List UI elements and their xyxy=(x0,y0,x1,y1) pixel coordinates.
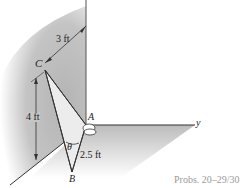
point-a-label: A xyxy=(88,112,94,122)
hinge-a-bracket xyxy=(84,129,96,135)
figure-drawing xyxy=(0,0,248,188)
mechanics-figure: 3 ft C 4 ft A θ 2.5 ft B y Probs. 20–29/… xyxy=(0,0,248,188)
dim-4ft-label: 4 ft xyxy=(26,112,40,122)
angle-theta-label: θ xyxy=(67,142,72,152)
dim-3ft-label: 3 ft xyxy=(56,34,70,44)
point-c-label: C xyxy=(35,58,42,69)
point-b-label: B xyxy=(69,174,75,184)
y-axis-label: y xyxy=(196,118,200,128)
dim-ab-label: 2.5 ft xyxy=(80,150,101,160)
figure-caption: Probs. 20–29/30 xyxy=(174,175,240,185)
